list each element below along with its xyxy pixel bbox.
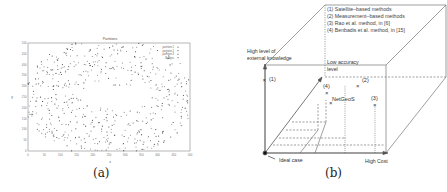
figure-b-cube-diagram: (1) Satellite–based methods (2) Measurem…	[0, 0, 447, 192]
origin-label: Ideal case	[279, 157, 303, 163]
point-2-marker: ×	[356, 83, 360, 89]
depth-axis-arrow	[265, 80, 320, 153]
figure-b-caption: (b)	[325, 166, 342, 180]
point-3-marker: ×	[373, 102, 377, 108]
vertical-axis-label: High level of	[247, 48, 276, 54]
depth-axis-label-2: level	[327, 66, 338, 72]
legend-item-1: (1) Satellite–based methods	[327, 6, 392, 12]
cube-diagram: (1) Satellite–based methods (2) Measurem…	[0, 0, 447, 192]
vertical-axis-label-2: external knowledge	[247, 55, 292, 61]
diagram-legend: (1) Satellite–based methods (2) Measurem…	[327, 6, 405, 33]
legend-item-4: (4) Benbadis et al. method, in [15]	[327, 27, 405, 33]
netgeos-label: NetGeoS	[332, 96, 355, 102]
point-4-label: (4)	[323, 83, 330, 89]
ideal-case-dot	[263, 151, 267, 155]
horizontal-axis-label: High Cost	[365, 158, 388, 164]
point-2-label: (2)	[362, 77, 369, 83]
point-4-marker: ×	[325, 90, 329, 96]
point-1-marker: ×	[263, 77, 267, 83]
point-1-label: (1)	[269, 76, 276, 82]
depth-axis-label: Low accuracy	[327, 59, 359, 65]
legend-item-3: (3) Rao et al. method, in [6]	[327, 20, 390, 26]
cube-bottom-right-edge	[386, 77, 446, 153]
legend-item-2: (2) Measurement–based methods	[327, 13, 405, 19]
point-3-label: (3)	[371, 95, 378, 101]
